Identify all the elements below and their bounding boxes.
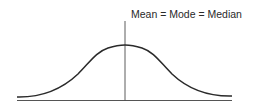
normal-distribution-diagram: Mean = Mode = Median (0, 0, 262, 107)
mean-mode-median-label: Mean = Mode = Median (131, 8, 242, 20)
bell-curve (17, 45, 232, 97)
